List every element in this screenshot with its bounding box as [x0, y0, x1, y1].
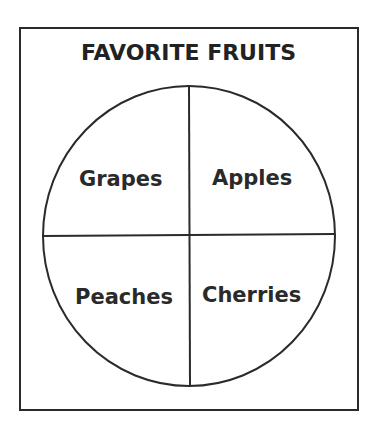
slice-label-peaches: Peaches — [75, 285, 173, 309]
slice-label-cherries: Cherries — [202, 283, 301, 307]
slice-label-grapes: Grapes — [79, 167, 163, 191]
slice-label-apples: Apples — [212, 166, 292, 190]
pie-chart — [0, 0, 377, 421]
pie-divider-vertical — [189, 86, 190, 386]
